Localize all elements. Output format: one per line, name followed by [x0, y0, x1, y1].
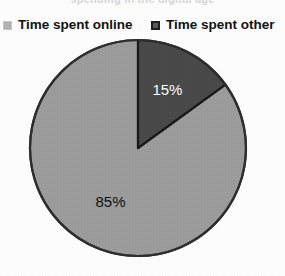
pie-label-time-spent-other: 15% — [152, 81, 182, 98]
legend-item-time-spent-other[interactable]: Time spent other — [151, 14, 275, 36]
legend-swatch-online-icon — [3, 21, 12, 30]
legend-label-time-spent-online: Time spent online — [18, 18, 133, 32]
pie-chart-svg: 15% 85% — [0, 36, 285, 276]
pie-label-time-spent-online: 85% — [95, 193, 125, 210]
legend-item-time-spent-online[interactable]: Time spent online — [3, 14, 133, 36]
legend-swatch-other-icon — [151, 21, 160, 30]
clipped-caption-text: spending in the digital age — [0, 0, 285, 5]
pie-chart-figure: spending in the digital age Time spent o… — [0, 0, 285, 276]
legend-label-time-spent-other: Time spent other — [166, 18, 275, 32]
chart-legend: Time spent online Time spent other — [0, 14, 285, 36]
pie-chart-plot-area: 15% 85% — [0, 36, 285, 276]
